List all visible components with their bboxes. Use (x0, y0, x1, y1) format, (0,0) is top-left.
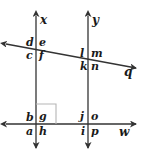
angle-label-a: a (26, 126, 33, 137)
line-label-x: x (40, 14, 47, 26)
angle-label-m: m (91, 48, 103, 59)
angle-label-n: n (91, 61, 99, 72)
angle-label-g: g (39, 111, 47, 122)
angle-label-h: h (39, 126, 47, 137)
line-label-w: w (119, 126, 129, 138)
geometry-diagram: x y q w d e c f l m k n b g a h j o i p (0, 0, 144, 155)
angle-label-b: b (26, 112, 34, 123)
angle-label-p: p (91, 126, 99, 137)
angle-label-e: e (39, 37, 46, 48)
angle-label-o: o (91, 111, 98, 122)
angle-label-i: i (81, 126, 85, 137)
angle-label-l: l (80, 48, 84, 59)
angle-label-k: k (80, 61, 88, 72)
line-label-y: y (92, 14, 99, 26)
line-label-q: q (124, 66, 132, 78)
angle-label-f: f (39, 50, 44, 61)
angle-label-j: j (80, 111, 84, 122)
angle-label-c: c (26, 50, 33, 61)
angle-label-d: d (26, 37, 34, 48)
